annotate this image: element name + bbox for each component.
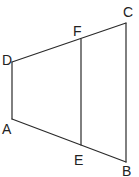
label-c: C (123, 4, 133, 20)
geometry-diagram: D A F E C B (0, 0, 139, 177)
label-b: B (122, 163, 131, 177)
label-e: E (74, 152, 83, 168)
label-f: F (73, 23, 82, 39)
segment-cd (12, 23, 126, 62)
label-d: D (2, 52, 12, 68)
segment-ab (12, 119, 126, 162)
label-a: A (2, 121, 12, 137)
